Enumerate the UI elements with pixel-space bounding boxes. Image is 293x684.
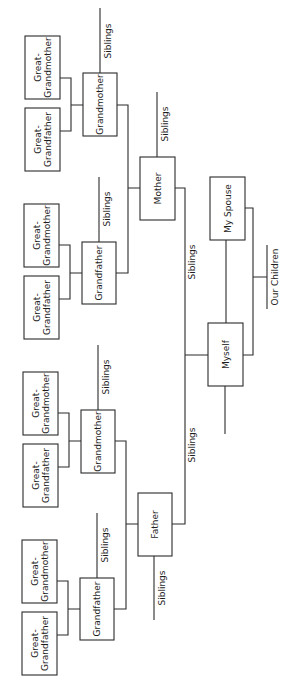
great-grandmother-3-line1: Great- bbox=[31, 389, 41, 417]
siblings-label-grandfather-maternal: Siblings bbox=[102, 191, 112, 226]
mother-label: Mother bbox=[153, 172, 163, 204]
great-grandfather-3-line1: Great- bbox=[31, 461, 41, 489]
great-grandmother-2: Great- Grandmother bbox=[24, 204, 59, 267]
great-grandmother-1: Great- Grandmother bbox=[25, 36, 60, 99]
siblings-label-myself-upper: Siblings bbox=[187, 244, 197, 279]
grandmother-paternal-label: Grandmother bbox=[93, 411, 103, 472]
siblings-label-mother: Siblings bbox=[160, 106, 170, 141]
our-children-label: Our Children bbox=[270, 249, 280, 306]
father-label: Father bbox=[150, 510, 160, 539]
great-grandfather-3: Great- Grandfather bbox=[23, 444, 58, 507]
great-grandfather-2: Great- Grandfather bbox=[24, 276, 59, 339]
grandfather-paternal-label: Grandfather bbox=[92, 581, 102, 636]
great-grandfather-1-line2: Grandfather bbox=[43, 112, 53, 167]
connector-ggp4 bbox=[57, 581, 80, 635]
connector-paternal-grandparents bbox=[114, 441, 138, 609]
great-grandmother-1-line2: Grandmother bbox=[43, 37, 53, 98]
siblings-label-grandmother-maternal: Siblings bbox=[103, 23, 113, 58]
grandfather-maternal: Grandfather bbox=[82, 242, 116, 304]
great-grandmother-2-line2: Grandmother bbox=[42, 205, 52, 266]
connector-maternal-grandparents bbox=[116, 105, 140, 273]
grandfather-paternal: Grandfather bbox=[80, 578, 114, 640]
myself-label: Myself bbox=[221, 339, 231, 369]
great-grandfather-4: Great- Grandfather bbox=[22, 612, 57, 675]
great-grandmother-4: Great- Grandmother bbox=[22, 540, 57, 603]
great-grandfather-1: Great- Grandfather bbox=[25, 108, 60, 171]
great-grandmother-3-line2: Grandmother bbox=[41, 373, 51, 434]
great-grandmother-2-line1: Great- bbox=[32, 221, 42, 249]
grandmother-maternal-label: Grandmother bbox=[95, 74, 105, 135]
grandmother-maternal: Grandmother bbox=[83, 73, 117, 136]
great-grandfather-1-line1: Great- bbox=[33, 125, 43, 153]
grandfather-maternal-label: Grandfather bbox=[94, 245, 104, 300]
siblings-label-grandfather-paternal: Siblings bbox=[100, 527, 110, 562]
connector-couple bbox=[243, 208, 267, 355]
my-spouse-label: My Spouse bbox=[223, 184, 233, 233]
myself: Myself bbox=[208, 323, 243, 386]
great-grandfather-4-line1: Great- bbox=[30, 629, 40, 657]
connector-ggp2 bbox=[59, 245, 82, 299]
great-grandmother-1-line1: Great- bbox=[33, 53, 43, 81]
mother: Mother bbox=[140, 157, 175, 220]
my-spouse: My Spouse bbox=[210, 177, 245, 240]
siblings-label-grandmother-paternal: Siblings bbox=[101, 359, 111, 394]
great-grandfather-3-line2: Grandfather bbox=[41, 448, 51, 503]
connector-parents-spine bbox=[172, 188, 208, 524]
great-grandmother-3: Great- Grandmother bbox=[23, 372, 58, 435]
family-tree-diagram: Great- Grandmother Great- Grandfather Gr… bbox=[0, 0, 293, 684]
great-grandmother-4-line1: Great- bbox=[30, 557, 40, 585]
connector-ggp1 bbox=[60, 78, 83, 131]
siblings-label-father: Siblings bbox=[157, 570, 167, 605]
great-grandmother-4-line2: Grandmother bbox=[40, 541, 50, 602]
grandmother-paternal: Grandmother bbox=[81, 410, 115, 473]
siblings-label-myself-lower: Siblings bbox=[187, 427, 197, 462]
great-grandfather-2-line1: Great- bbox=[32, 293, 42, 321]
great-grandfather-2-line2: Grandfather bbox=[42, 280, 52, 335]
great-grandfather-4-line2: Grandfather bbox=[40, 616, 50, 671]
father: Father bbox=[138, 493, 172, 556]
connector-ggp3 bbox=[58, 413, 81, 467]
